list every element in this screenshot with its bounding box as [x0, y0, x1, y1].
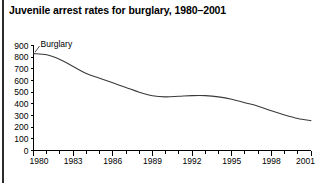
- chart-figure: Juvenile arrest rates for burglary, 1980…: [0, 0, 327, 183]
- y-tick-label: 300: [14, 111, 28, 121]
- x-tick-label: 1983: [64, 156, 83, 166]
- chart-plot: 0100200300400500600700800900 19801983198…: [0, 0, 327, 183]
- x-tick-label: 1995: [222, 156, 241, 166]
- y-tick-label: 0: [24, 146, 29, 156]
- y-tick-label: 900: [14, 41, 28, 51]
- series-label-leader: [35, 46, 40, 52]
- x-tick-label: 1980: [30, 156, 49, 166]
- x-tick-label: 1989: [143, 156, 162, 166]
- x-tick-label: 1998: [262, 156, 281, 166]
- y-tick-label: 800: [14, 52, 28, 62]
- y-tick-label: 100: [14, 134, 28, 144]
- y-tick-label: 700: [14, 64, 28, 74]
- data-line-burglary: [34, 54, 312, 121]
- data-series-group: [34, 54, 312, 121]
- series-label-burglary: Burglary: [41, 39, 73, 49]
- series-annotation-group: Burglary: [35, 39, 73, 53]
- y-tick-label: 400: [14, 99, 28, 109]
- y-tick-label: 200: [14, 122, 28, 132]
- x-tick-label: 1986: [103, 156, 122, 166]
- x-tick-label: 2001: [296, 156, 315, 166]
- y-tick-label: 500: [14, 87, 28, 97]
- y-tick-label: 600: [14, 76, 28, 86]
- x-tick-label: 1992: [183, 156, 202, 166]
- y-axis: 0100200300400500600700800900: [14, 41, 33, 156]
- x-axis: 19801983198619891992199519982001: [30, 151, 316, 166]
